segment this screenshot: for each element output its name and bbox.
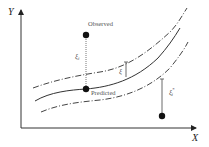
observed-point <box>83 32 89 38</box>
predicted-point <box>83 86 89 92</box>
diagram-canvas: Y X Observed ξi Predicted ξ ξ*i <box>0 0 209 147</box>
xi-i-label: ξi <box>75 52 80 61</box>
lower-bound-curve <box>41 42 188 112</box>
xi-i-star-label: ξ*i <box>169 87 175 97</box>
y-axis-label: Y <box>8 6 15 17</box>
predicted-label: Predicted <box>91 89 116 96</box>
observed-label: Observed <box>88 20 114 27</box>
x-axis-label: X <box>191 132 199 143</box>
epsilon-label: ξ <box>119 67 122 75</box>
below-point <box>159 113 165 119</box>
